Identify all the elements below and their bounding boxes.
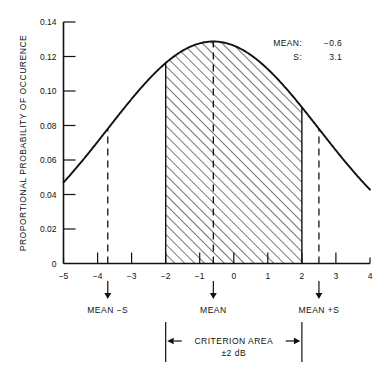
y-tick-label: 0.08	[40, 121, 57, 131]
mean-stat-value: −0.6	[324, 38, 342, 48]
y-tick-label: 0.02	[40, 224, 57, 234]
marker-label-mean: MEAN	[200, 305, 227, 315]
y-tick-label: 0.04	[40, 190, 57, 200]
s-stat-label: S:	[293, 52, 302, 62]
x-tick-label: 0	[231, 271, 236, 281]
marker-label-mean-plus-s: MEAN +S	[298, 305, 339, 315]
x-tick-label: −2	[161, 271, 171, 281]
s-stat-value: 3.1	[329, 52, 342, 62]
y-tick-label: 0.14	[40, 17, 57, 27]
y-tick-label: 0	[52, 259, 57, 269]
y-tick-label: 0.12	[40, 52, 57, 62]
x-tick-label: −5	[59, 271, 69, 281]
x-tick-label: −3	[127, 271, 137, 281]
x-tick-label: 2	[300, 271, 305, 281]
x-tick-label: 1	[265, 271, 270, 281]
criterion-area-label: CRITERION AREA	[194, 336, 273, 346]
y-axis-title: PROPORTIONAL PROBABILITY OF OCCURENCE	[18, 35, 28, 252]
y-tick-label: 0.10	[40, 86, 57, 96]
probability-distribution-chart: PROPORTIONAL PROBABILITY OF OCCURENCE 00…	[0, 0, 386, 368]
mean-stat-label: MEAN:	[273, 38, 302, 48]
x-tick-label: −1	[195, 271, 205, 281]
y-tick-label: 0.06	[40, 155, 57, 165]
x-tick-label: 4	[368, 271, 373, 281]
marker-label-mean-minus-s: MEAN −S	[87, 305, 128, 315]
criterion-range-label: ±2 dB	[221, 348, 246, 358]
x-tick-label: 3	[334, 271, 339, 281]
x-tick-label: −4	[93, 271, 103, 281]
